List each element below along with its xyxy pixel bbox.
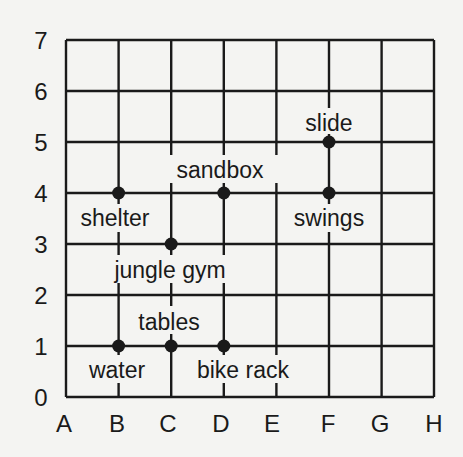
- x-tick-g: G: [371, 410, 390, 437]
- x-tick-e: E: [264, 410, 280, 437]
- y-tick-0: 0: [34, 384, 47, 411]
- y-tick-6: 6: [34, 78, 47, 105]
- label-bike-rack: bike rack: [197, 357, 290, 383]
- y-tick-4: 4: [34, 180, 47, 207]
- label-jungle-gym: jungle gym: [113, 257, 225, 283]
- label-swings: swings: [294, 205, 364, 231]
- point-slide-icon: [323, 136, 336, 149]
- point-tables-icon: [165, 340, 178, 353]
- point-sandbox-icon: [217, 187, 230, 200]
- label-shelter: shelter: [80, 205, 149, 231]
- point-swings-icon: [323, 187, 336, 200]
- y-tick-7: 7: [34, 27, 47, 54]
- x-axis-labels: A B C D E F G H: [56, 410, 443, 437]
- y-tick-3: 3: [34, 231, 47, 258]
- x-tick-f: F: [321, 410, 336, 437]
- point-bike-rack-icon: [217, 340, 230, 353]
- point-water-icon: [112, 340, 125, 353]
- y-tick-5: 5: [34, 129, 47, 156]
- y-tick-2: 2: [34, 282, 47, 309]
- y-axis-labels: 7 6 5 4 3 2 1 0: [34, 27, 47, 411]
- point-jungle-gym-icon: [165, 238, 178, 251]
- label-tables: tables: [138, 309, 199, 335]
- label-sandbox: sandbox: [177, 157, 264, 183]
- y-tick-1: 1: [34, 333, 47, 360]
- label-water: water: [88, 357, 146, 383]
- x-tick-c: C: [159, 410, 176, 437]
- x-tick-a: A: [56, 410, 72, 437]
- x-tick-d: D: [212, 410, 229, 437]
- point-shelter-icon: [112, 187, 125, 200]
- x-tick-h: H: [425, 410, 442, 437]
- coordinate-grid: 7 6 5 4 3 2 1 0 A B C D E F G H slide sa…: [0, 0, 463, 457]
- x-tick-b: B: [109, 410, 125, 437]
- label-slide: slide: [305, 110, 352, 136]
